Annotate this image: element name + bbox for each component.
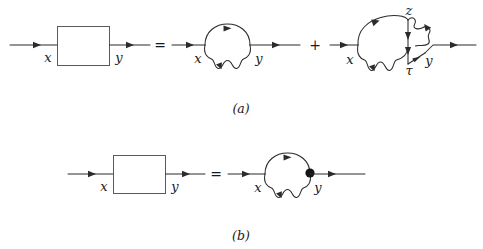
feynman-diagram-canvas: = + [0,0,483,249]
vertex-blob-b-rhs [305,168,314,177]
propagator-box-a-lhs [58,27,110,66]
caption-a: (a) [232,101,249,116]
diagram-b-rhs-self-energy-blob [228,153,365,198]
label-tau-a-term2: τ [405,63,413,78]
right-wavy-loop-a-term2 [408,18,430,46]
plus-sign-row-a: + [309,37,321,53]
arrowhead-incoming-a-term2 [340,42,348,48]
arrowhead-tau-to-y-a-term2 [412,56,420,62]
label-x-b-rhs: x [254,180,262,195]
caption-b: (b) [232,228,250,243]
figure-container: = + [0,0,483,249]
arrowhead-incoming-b-lhs [88,171,96,177]
arrowhead-loop-arc-a-term1 [224,25,232,31]
arrowhead-incoming-a-term1 [186,42,194,48]
diagram-b-lhs-box-propagator [68,156,205,194]
label-x-b-lhs: x [100,179,108,194]
arrowhead-outgoing-a-term2 [450,42,458,48]
diagram-a-lhs-box-propagator [10,27,150,66]
label-z-a-term2: z [405,3,413,18]
label-x-a-lhs: x [44,50,52,65]
loop-wavy-line-b-rhs [265,174,311,198]
label-y-a-lhs: y [114,50,123,65]
label-y-b-lhs: y [170,179,179,194]
loop-arc-a-term2 [358,16,408,45]
arrowhead-outgoing-a-term1 [272,42,280,48]
diagram-a-term1-self-energy [172,24,300,69]
label-x-a-term1: x [194,51,202,66]
propagator-box-b-lhs [114,156,166,194]
equals-sign-row-a: = [154,37,166,53]
arrowhead-loop-arc-a-term2 [371,20,379,27]
label-y-b-rhs: y [313,180,322,195]
label-y-a-term1: y [254,51,263,66]
arrowhead-outgoing-b-rhs [328,171,336,177]
loop-wavy-line-a-term1 [205,45,251,69]
label-y-a-term2: y [424,53,433,68]
arrowhead-incoming-a-lhs [33,42,41,48]
equals-sign-row-b: = [210,166,222,182]
arrowhead-vertical-upper-a-term2 [405,32,411,40]
arrowhead-outgoing-a-lhs [126,42,134,48]
arrowhead-loop-arc-b-rhs [284,154,292,160]
arrowhead-incoming-b-rhs [242,171,250,177]
label-x-a-term2: x [346,52,354,67]
arrowhead-outgoing-b-lhs [182,171,190,177]
lower-wavy-line-a-term2 [358,45,408,71]
